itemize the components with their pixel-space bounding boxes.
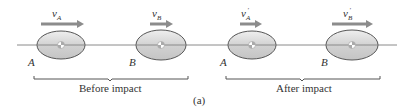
center-of-mass-icon (158, 42, 165, 49)
velocity-label-a-after: vA′ (241, 6, 249, 22)
body-b-after (326, 30, 378, 60)
brace-after-impact (226, 76, 380, 81)
figure-caption: (a) (193, 94, 205, 106)
body-label-a-after: A (220, 56, 227, 68)
velocity-arrow-a-before (41, 20, 84, 28)
velocity-label-a-before: vA (52, 6, 58, 22)
body-label-a-before: A (28, 56, 35, 68)
center-of-mass-icon (58, 42, 65, 49)
body-label-b-before: B (129, 56, 136, 68)
center-of-mass-icon (249, 42, 256, 49)
group-label-after-impact: After impact (276, 82, 332, 94)
body-a-after (228, 31, 276, 59)
velocity-label-b-after: vB′ (343, 6, 351, 22)
body-label-b-after: B (321, 56, 328, 68)
center-of-mass-icon (349, 42, 356, 49)
body-b-before (136, 30, 186, 60)
group-label-before-impact: Before impact (79, 82, 142, 94)
body-a-before (37, 31, 85, 59)
brace-before-impact (34, 76, 188, 81)
velocity-arrow-b-after (332, 20, 373, 28)
velocity-label-b-before: vB (152, 6, 158, 22)
